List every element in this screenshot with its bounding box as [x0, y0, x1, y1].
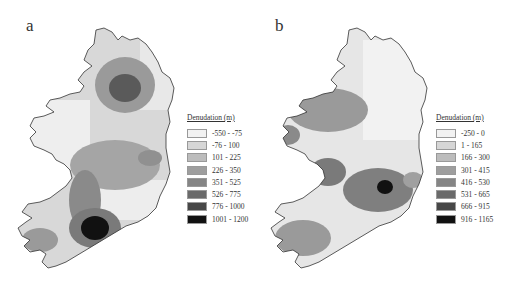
- legend-label: 226 - 350: [212, 166, 241, 175]
- legend-b: Denudation (m) -250 - 0 1 - 165 166 - 30…: [436, 113, 493, 225]
- panel-a: a Denudation (m) -550 - -75 -76 - 100 10…: [0, 0, 253, 281]
- legend-swatch: [436, 202, 456, 211]
- legend-row: 1001 - 1200: [187, 213, 248, 225]
- legend-label: 526 - 775: [212, 190, 241, 199]
- legend-swatch: [436, 190, 456, 199]
- legend-label: 916 - 1165: [461, 215, 493, 224]
- legend-label: 1001 - 1200: [212, 215, 248, 224]
- legend-label: 416 - 530: [461, 178, 490, 187]
- legend-swatch: [436, 141, 456, 150]
- legend-label: 776 - 1000: [212, 202, 245, 211]
- legend-swatch: [187, 215, 207, 224]
- legend-row: 301 - 415: [436, 164, 493, 176]
- legend-row: 526 - 775: [187, 188, 248, 200]
- legend-row: 776 - 1000: [187, 201, 248, 213]
- legend-swatch: [187, 178, 207, 187]
- legend-swatch: [436, 166, 456, 175]
- legend-label: 666 - 915: [461, 202, 490, 211]
- legend-swatch: [187, 129, 207, 138]
- legend-swatch: [187, 190, 207, 199]
- legend-title-a: Denudation (m): [187, 113, 248, 122]
- legend-row: 416 - 530: [436, 176, 493, 188]
- legend-label: 166 - 300: [461, 153, 490, 162]
- legend-a: Denudation (m) -550 - -75 -76 - 100 101 …: [187, 113, 248, 225]
- legend-row: 101 - 225: [187, 152, 248, 164]
- legend-row: 916 - 1165: [436, 213, 493, 225]
- legend-label: -76 - 100: [212, 141, 240, 150]
- legend-label: 531 - 665: [461, 190, 490, 199]
- legend-row: -550 - -75: [187, 127, 248, 139]
- legend-swatch: [436, 129, 456, 138]
- legend-row: 166 - 300: [436, 152, 493, 164]
- panel-b: b Denudation (m) -250 - 0 1 - 165 166 - …: [253, 0, 506, 281]
- legend-swatch: [436, 178, 456, 187]
- legend-label: 1 - 165: [461, 141, 482, 150]
- legend-swatch: [187, 153, 207, 162]
- legend-swatch: [436, 153, 456, 162]
- legend-label: -550 - -75: [212, 129, 242, 138]
- legend-swatch: [436, 215, 456, 224]
- legend-swatch: [187, 141, 207, 150]
- legend-row: 226 - 350: [187, 164, 248, 176]
- legend-title-b: Denudation (m): [436, 113, 493, 122]
- legend-label: -250 - 0: [461, 129, 485, 138]
- legend-row: 351 - 525: [187, 176, 248, 188]
- legend-label: 351 - 525: [212, 178, 241, 187]
- legend-row: 666 - 915: [436, 201, 493, 213]
- legend-row: -250 - 0: [436, 127, 493, 139]
- legend-swatch: [187, 202, 207, 211]
- legend-label: 101 - 225: [212, 153, 241, 162]
- legend-row: 1 - 165: [436, 139, 493, 151]
- legend-swatch: [187, 166, 207, 175]
- legend-row: -76 - 100: [187, 139, 248, 151]
- legend-label: 301 - 415: [461, 166, 490, 175]
- legend-row: 531 - 665: [436, 188, 493, 200]
